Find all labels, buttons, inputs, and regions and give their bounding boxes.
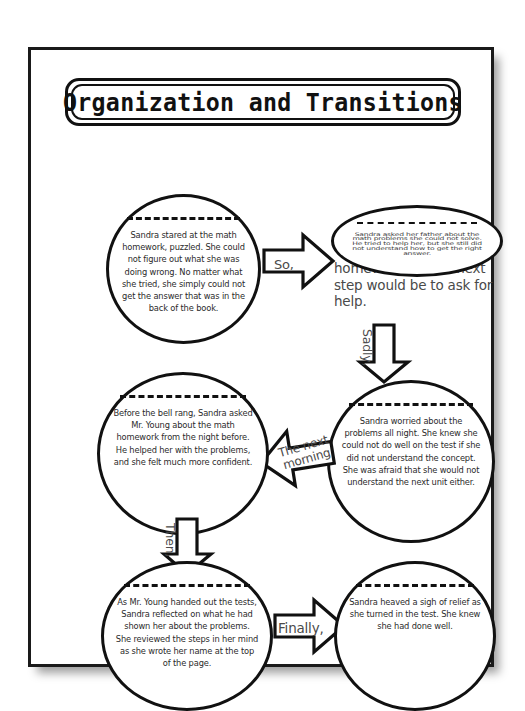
bubble-dashed-rule: [356, 584, 475, 587]
story-bubble-6: Sandra heaved a sigh of relief as she tu…: [334, 561, 496, 711]
bubble-text-3: Sandra worried about the problems all ni…: [341, 415, 480, 488]
bubble-text-6: Sandra heaved a sigh of relief as she tu…: [348, 596, 482, 633]
story-bubble-5: As Mr. Young handed out the tests, Sandr…: [101, 561, 273, 711]
worksheet-page: Organization and Transitions Sandra star…: [28, 47, 494, 667]
bubble-dashed-rule: [120, 395, 246, 398]
transition-arrow-so: [263, 233, 335, 289]
bubble-text-5: As Mr. Young handed out the tests, Sandr…: [116, 596, 259, 669]
story-bubble-4: Before the bell rang, Sandra asked Mr. Y…: [97, 372, 269, 535]
story-bubble-3: Sandra worried about the problems all ni…: [327, 380, 495, 543]
story-bubble-2: Sandra asked her father about the math p…: [331, 205, 503, 277]
bubble-dashed-rule: [349, 403, 472, 406]
page-title: Organization and Transitions: [63, 88, 463, 117]
title-banner: Organization and Transitions: [65, 78, 461, 126]
title-banner-inner: Organization and Transitions: [71, 84, 455, 120]
story-bubble-1: Sandra stared at the math homework, puzz…: [106, 194, 261, 344]
bubble-text-4: Before the bell rang, Sandra asked Mr. Y…: [112, 407, 255, 468]
transition-arrow-sadly: [358, 324, 410, 384]
bubble-text-2: Sandra asked her father about the math p…: [347, 232, 486, 256]
bubble-dashed-rule: [124, 584, 250, 587]
bubble-text-1: Sandra stared at the math homework, puzz…: [119, 229, 247, 314]
bubble-dashed-rule: [357, 222, 477, 224]
bubble-dashed-rule: [127, 217, 240, 220]
